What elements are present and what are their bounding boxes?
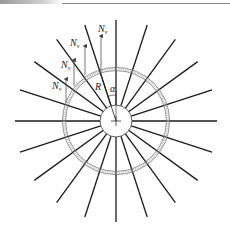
spoke — [131, 126, 212, 152]
spoke — [85, 136, 111, 217]
angle-label-alpha: α — [110, 83, 116, 94]
force-label-nv-2: Nv — [69, 37, 80, 49]
alpha-arc — [108, 95, 116, 96]
labels: NvNvNvNvRα — [51, 23, 116, 94]
radius-label-R: R — [94, 81, 101, 92]
spoke — [131, 90, 212, 116]
radial-spoke-diagram: NvNvNvNvRα — [0, 0, 230, 237]
force-label-nv-3: Nv — [60, 59, 71, 71]
spoke — [20, 90, 101, 116]
spoke — [121, 136, 147, 217]
force-label-nv-4: Nv — [51, 80, 62, 92]
spoke — [20, 126, 101, 152]
spoke — [121, 25, 147, 106]
force-label-nv-1: Nv — [97, 23, 108, 35]
